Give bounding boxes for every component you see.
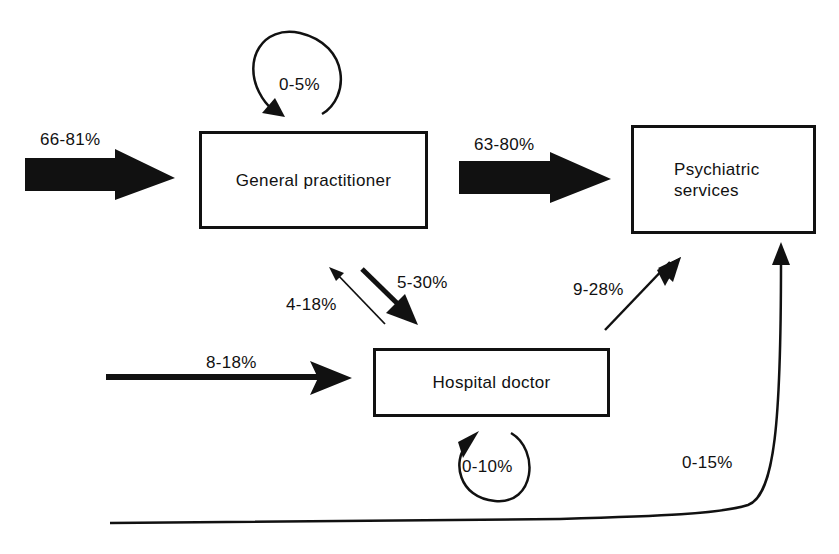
node-general-practitioner-label: General practitioner [236, 170, 391, 191]
label-into-gp: 66-81% [40, 130, 100, 150]
arrow-into-gp [25, 149, 175, 200]
node-psychiatric-services: Psychiatric services [631, 125, 816, 234]
label-hospital-to-psychiatric: 9-28% [573, 280, 624, 300]
label-hospital-to-gp: 4-18% [286, 295, 337, 315]
label-gp-to-hospital: 5-30% [397, 273, 448, 293]
node-psychiatric-services-label-line1: Psychiatric [674, 159, 760, 180]
node-hospital-doctor: Hospital doctor [373, 348, 610, 417]
node-general-practitioner: General practitioner [199, 131, 428, 229]
gp-self-loop-arc [253, 32, 341, 114]
arrow-gp-to-psychiatric [459, 152, 611, 203]
label-gp-self-loop: 0-5% [279, 75, 320, 95]
label-direct-to-psychiatric: 0-15% [682, 453, 733, 473]
arrow-hospital-to-gp [335, 272, 385, 324]
label-gp-to-psychiatric: 63-80% [474, 135, 534, 155]
label-hospital-self-loop: 0-10% [462, 457, 513, 477]
node-psychiatric-services-label-line2: services [674, 180, 760, 201]
label-into-hospital: 8-18% [206, 353, 257, 373]
node-hospital-doctor-label: Hospital doctor [433, 372, 551, 393]
